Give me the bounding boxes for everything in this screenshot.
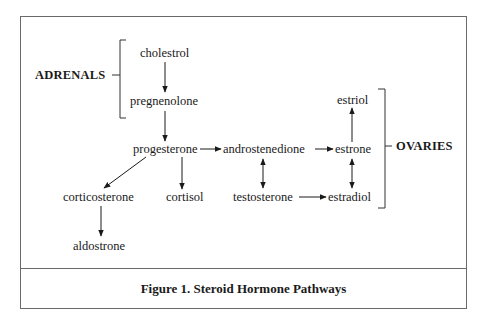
node-estrone: estrone (335, 143, 371, 156)
adrenals-bracket (112, 40, 126, 118)
node-androstenedione: androstenedione (223, 143, 305, 156)
node-estradiol: estradiol (328, 191, 371, 204)
ovaries-label: OVARIES (396, 140, 453, 153)
node-estriol: estriol (337, 94, 368, 107)
node-aldostrone: aldostrone (73, 240, 125, 253)
adrenals-label: ADRENALS (35, 69, 105, 82)
node-testosterone: testosterone (233, 191, 293, 204)
node-corticosterone: corticosterone (63, 191, 134, 204)
ovaries-bracket (378, 89, 392, 208)
arrow-progesterone-corticosterone (104, 157, 146, 188)
node-pregnenolone: pregnenolone (130, 95, 198, 108)
node-progesterone: progesterone (133, 143, 198, 156)
node-cortisol: cortisol (166, 191, 204, 204)
node-cholestrol: cholestrol (140, 47, 189, 60)
figure-caption: Figure 1. Steroid Hormone Pathways (20, 269, 467, 309)
